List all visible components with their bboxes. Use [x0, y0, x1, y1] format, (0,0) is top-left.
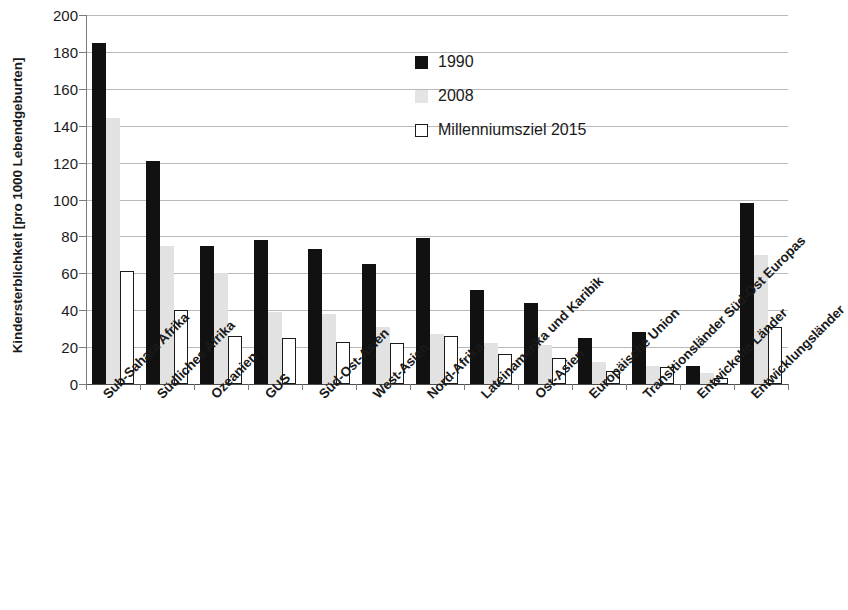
- x-category-label: GUS: [262, 371, 293, 402]
- legend-item: 2008: [415, 79, 665, 113]
- legend-swatch-icon: [415, 90, 428, 103]
- x-category-label: Ost-Asien: [532, 347, 587, 402]
- x-category-label: Entwicklungsländer: [748, 302, 848, 402]
- x-category-label: Ozeanien: [208, 349, 260, 401]
- legend-label: 2008: [438, 87, 474, 105]
- legend-item: 1990: [415, 45, 665, 79]
- x-category-label: West-Asien: [370, 340, 432, 402]
- x-category-label: Nord-Afrika: [424, 339, 486, 401]
- x-category-label: Europäische Union: [586, 305, 682, 401]
- legend-swatch-icon: [415, 56, 428, 69]
- legend-swatch-icon: [415, 124, 428, 137]
- legend-label: 1990: [438, 53, 474, 71]
- x-category-label: Entwickelte Länder: [694, 305, 790, 401]
- legend-label: Millenniumsziel 2015: [438, 121, 587, 139]
- chart-legend: 19902008Millenniumsziel 2015: [415, 45, 665, 147]
- legend-item: Millenniumsziel 2015: [415, 113, 665, 147]
